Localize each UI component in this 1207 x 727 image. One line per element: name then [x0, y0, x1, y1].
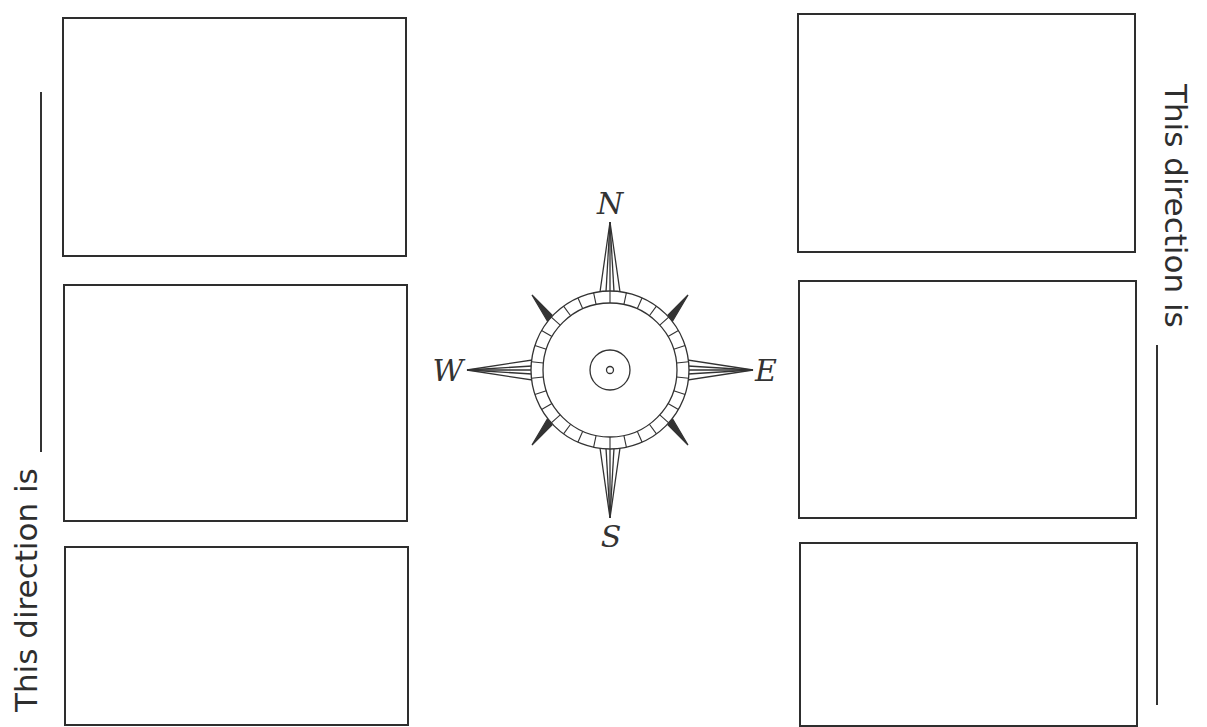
- right-answer-line[interactable]: [1156, 345, 1158, 705]
- compass-north-label: N: [596, 186, 625, 221]
- compass-rose-icon: N S W E: [410, 180, 810, 560]
- left-box-2[interactable]: [63, 284, 408, 522]
- left-prompt-text: This direction is: [8, 468, 44, 712]
- left-direction-prompt: This direction is: [8, 468, 44, 712]
- right-box-3[interactable]: [799, 542, 1138, 727]
- left-box-1[interactable]: [62, 17, 407, 257]
- right-prompt-text: This direction is: [1158, 84, 1194, 328]
- left-box-3[interactable]: [64, 546, 409, 726]
- right-box-2[interactable]: [798, 280, 1137, 519]
- left-answer-line[interactable]: [40, 92, 42, 452]
- compass-west-label: W: [433, 353, 466, 388]
- right-box-1[interactable]: [797, 13, 1136, 253]
- right-direction-prompt: This direction is: [1158, 84, 1194, 328]
- compass-east-label: E: [754, 353, 777, 388]
- compass-south-label: S: [601, 519, 622, 554]
